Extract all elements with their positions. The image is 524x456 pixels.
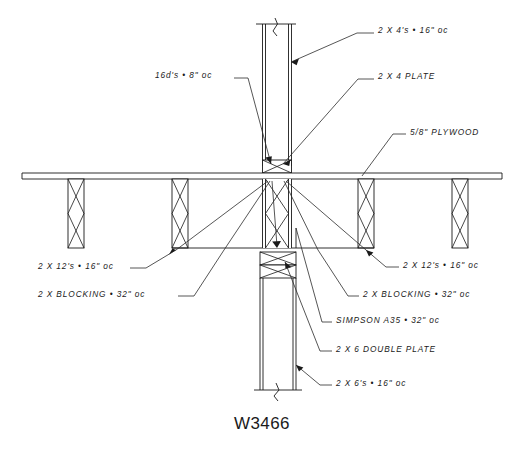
leader-16d-nails xyxy=(234,78,272,164)
note-simpson-a35: SIMPSON A35 • 32" oc xyxy=(336,316,440,324)
lower-stud-wall xyxy=(254,278,302,401)
detail-drawing-canvas xyxy=(0,0,524,456)
floor-joist-right xyxy=(358,179,374,248)
drawing-sheet: 2 X 4's • 16" oc 16d's • 8" oc 2 X 4 PLA… xyxy=(0,0,524,456)
leader-2x6s xyxy=(296,365,332,385)
leader-center-converge-right xyxy=(286,181,366,250)
leader-2x12s-right xyxy=(366,250,399,267)
note-2x6s: 2 X 6's • 16" oc xyxy=(336,379,406,387)
leader-blocking-left xyxy=(178,250,224,296)
leader-center-converge-left xyxy=(176,181,268,250)
leader-blocking-right xyxy=(318,250,359,296)
upper-stud-wall xyxy=(256,18,296,166)
note-plywood: 5/8" PLYWOOD xyxy=(410,128,479,136)
note-16d-nails: 16d's • 8" oc xyxy=(155,71,212,79)
floor-joist-far-right xyxy=(452,179,468,248)
sheet-title-label: W3466 xyxy=(0,414,524,434)
floor-joist-left xyxy=(172,179,188,248)
center-blocking xyxy=(263,179,292,248)
note-2x12s-left: 2 X 12's • 16" oc xyxy=(38,262,114,270)
note-blocking-left: 2 X BLOCKING • 32" oc xyxy=(38,290,145,298)
leader-2x4-plate xyxy=(283,79,374,166)
plywood-sheathing xyxy=(22,173,502,179)
note-2x4s: 2 X 4's • 16" oc xyxy=(378,26,448,34)
floor-joist-far-left xyxy=(68,179,84,248)
lower-double-plate xyxy=(260,252,296,278)
leader-2x4s xyxy=(291,33,374,65)
note-2x12s-right: 2 X 12's • 16" oc xyxy=(403,261,479,269)
leader-2x12s-left xyxy=(130,249,176,268)
note-2x4-plate: 2 X 4 PLATE xyxy=(378,72,435,80)
leader-plywood xyxy=(362,134,406,176)
note-double-plate: 2 X 6 DOUBLE PLATE xyxy=(336,345,436,353)
note-blocking-right: 2 X BLOCKING • 32" oc xyxy=(363,290,470,298)
